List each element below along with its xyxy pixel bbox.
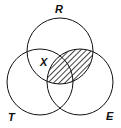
label-r: R (55, 3, 63, 15)
label-e: E (106, 110, 114, 122)
venn-diagram: R T E X (0, 0, 121, 128)
label-x: X (39, 56, 48, 68)
label-t: T (8, 111, 16, 123)
venn-svg: R T E X (0, 0, 121, 128)
